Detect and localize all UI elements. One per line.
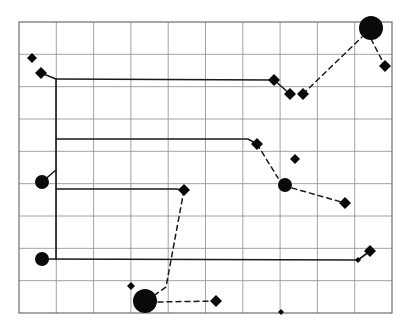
grid-layer	[19, 22, 392, 313]
path-left-trunk	[41, 73, 56, 259]
diamond-bottom-center	[210, 295, 222, 307]
diamond-small-mid-right	[290, 154, 300, 164]
diamond-right-lower	[339, 197, 351, 209]
dashed-top-right-ascent	[303, 37, 362, 94]
diamond-upper-right	[379, 60, 391, 72]
path-top-horizontal	[56, 79, 274, 80]
diamond-bottom-right	[364, 245, 376, 257]
circle-left-middle	[35, 175, 49, 189]
circle-mid-right	[278, 178, 292, 192]
circle-left-lower	[35, 252, 49, 266]
dashed-path-layer	[152, 37, 385, 302]
circle-top-right-large	[359, 16, 383, 40]
path-second-horizontal	[56, 139, 257, 144]
path-third-horizontal	[56, 189, 184, 190]
diamond-mid-right-upper	[251, 138, 263, 150]
dashed-bottom-run	[158, 301, 216, 302]
diamond-small-bottom-axis	[278, 309, 284, 315]
diamond-upper-left	[35, 67, 47, 79]
diagram-canvas	[0, 0, 411, 333]
path-bottom-horizontal	[42, 259, 358, 260]
diamond-top-dip-right	[297, 88, 309, 100]
dashed-top-right-descent	[371, 39, 385, 66]
scatter-network-figure	[0, 0, 411, 333]
diamond-center	[178, 184, 190, 196]
diamond-small-bottom-left	[127, 282, 135, 290]
dashed-mid-right-descent	[257, 144, 278, 178]
circle-bottom-large	[133, 289, 157, 313]
dashed-mid-right-to-lower	[292, 188, 345, 203]
